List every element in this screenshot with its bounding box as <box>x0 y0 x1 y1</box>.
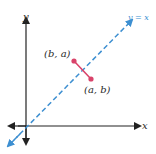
reflection-diagram: y x y = x (b, a) (a, b) <box>0 0 156 154</box>
line-y-equals-x <box>14 20 132 140</box>
x-axis-label: x <box>142 120 148 131</box>
point-a-b-label: (a, b) <box>84 84 111 95</box>
line-y-equals-x-neg <box>8 134 20 146</box>
point-a-b <box>88 76 93 81</box>
y-axis-label: y <box>22 11 29 22</box>
point-b-a <box>71 58 76 63</box>
point-b-a-label: (b, a) <box>44 48 71 59</box>
line-label: y = x <box>127 13 149 22</box>
